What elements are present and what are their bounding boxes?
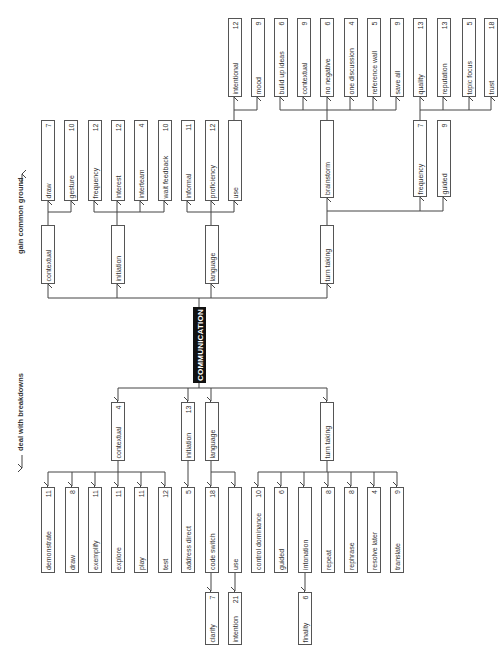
node-gain-language: language [205,225,219,284]
node-label: informal [185,170,192,201]
node-count: 9 [255,18,262,28]
node-count: 18 [209,487,216,501]
node-gain-interest: interest12 [111,120,125,201]
node-count: 8 [325,487,332,497]
node-label: mood [255,73,262,97]
node-deal-intonation: intonation [298,487,312,573]
node-count: 11 [138,487,145,500]
node-label: turn taking [324,245,331,284]
node-label: contextual [301,59,308,97]
node-deal-clarify: clarify7 [205,592,219,645]
node-label: one discussion [348,45,355,97]
node-label: guided [441,170,448,197]
node-gain-reference-wall: reference wall5 [367,18,381,97]
node-count: 11 [185,120,192,133]
node-count: 5 [371,18,378,28]
node-label: proficiency [209,162,216,201]
root-label: COMMUNICATION [195,309,204,381]
node-gain-interteam: interteam4 [134,120,148,201]
node-count: 13 [417,18,424,32]
node-deal-test: test12 [158,487,172,573]
node-label: finality [302,619,309,645]
node-gain-reputation: reputation13 [437,18,451,97]
node-label: brainstorm [324,159,331,198]
node-gain-trust: trust18 [484,18,498,97]
node-deal-rephrase: rephrase8 [344,487,358,573]
node-count: 12 [209,120,216,134]
node-count: 10 [162,120,169,134]
node-label: explore [115,544,122,573]
node-deal-resolve-later: resolve later4 [367,487,381,573]
node-count: 5 [185,487,192,497]
node-deal-code-switch: code switch18 [205,487,219,573]
node-deal-play: play11 [134,487,148,573]
node-deal-finality: finality6 [298,592,312,645]
node-gain-turn-taking: turn taking [320,225,334,284]
node-gain-contextual: contextual [41,225,55,284]
node-gain-mood: mood9 [251,18,265,97]
node-count: 10 [68,120,75,134]
node-count: 8 [348,487,355,497]
node-gain-wait-feedback: wait feedback10 [158,120,172,201]
node-label: demonstrate [45,528,52,573]
node-deal-control-dominance: control dominance10 [251,487,265,573]
node-count: 8 [69,487,76,497]
node-gain-turn-frequency: frequency7 [413,120,427,197]
node-count: 6 [324,18,331,28]
node-deal-address-direct: address direct5 [181,487,195,573]
direction-label-deal-with-breakdowns: deal with breakdowns [16,373,25,451]
node-count: 4 [138,120,145,130]
node-count: 13 [441,18,448,32]
root-node-communication: COMMUNICATION [193,307,206,383]
node-count: 7 [417,120,424,130]
node-count: 7 [45,120,52,130]
node-count: 21 [232,592,239,606]
node-label: reference wall [371,47,378,97]
node-count: 6 [278,18,285,28]
node-label: contextual [45,246,52,284]
node-deal-explore: explore11 [111,487,125,573]
node-count: 4 [371,487,378,497]
node-label: initiation [115,252,122,284]
node-label: topic focus [466,58,473,97]
node-gain-no-negative: no negative6 [320,18,334,97]
node-label: language [209,426,216,461]
node-count: 4 [348,18,355,28]
communication-tree-diagram: gain common ground deal with breakdowns … [0,0,503,648]
node-label: play [138,554,145,573]
node-count: 11 [115,487,122,500]
node-deal-repeat: repeat8 [321,487,335,573]
node-deal-use: use [228,487,242,573]
node-label: use [232,184,239,201]
node-deal-exemplify: exemplify11 [88,487,102,573]
node-label: intention [232,613,239,645]
node-count: 9 [301,18,308,28]
node-label: interteam [138,166,145,201]
node-count: 12 [115,120,122,134]
node-count: 11 [92,487,99,500]
node-label: draw [69,552,76,573]
node-gain-informal: informal11 [181,120,195,201]
node-label: interest [115,172,122,201]
node-deal-demonstrate: demonstrate11 [41,487,55,573]
node-label: language [209,249,216,284]
node-count: 12 [162,487,169,501]
node-gain-gesture: gesture10 [64,120,78,201]
node-count: 7 [209,592,216,602]
node-count: 18 [488,18,495,32]
direction-label-gain-common-ground: gain common ground [16,177,25,254]
node-label: guided [278,546,285,573]
node-gain-quality: quality13 [413,18,427,97]
node-label: control dominance [255,510,262,573]
node-count: 10 [255,487,262,501]
node-label: initiation [185,429,192,461]
node-count: 9 [441,120,448,130]
node-gain-intentional: intentional12 [228,18,242,97]
node-deal-guided: guided6 [274,487,288,573]
node-label: turn taking [324,422,331,461]
node-deal-turn-taking: turn taking [320,402,334,461]
node-count: 13 [185,402,192,416]
node-label: no negative [324,55,331,97]
node-label: build up ideas [278,48,285,97]
node-label: exemplify [92,537,99,573]
